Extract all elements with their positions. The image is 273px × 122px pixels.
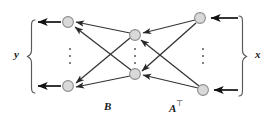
brace-label-x: x [255, 49, 261, 60]
edges-b [75, 22, 131, 87]
brace-label-y: y [14, 49, 19, 60]
edges-a-transpose [141, 20, 199, 88]
right-brace [239, 16, 247, 96]
matrix-label-a-transpose: A⊤ [169, 101, 183, 114]
transpose-symbol: ⊤ [176, 99, 183, 108]
nodes-group [63, 13, 209, 96]
ellipsis-output-column [69, 48, 71, 64]
left-brace [28, 20, 36, 93]
output-arrows-group [38, 22, 61, 86]
node-h1[interactable] [130, 30, 141, 41]
edge-xn-hn [143, 75, 198, 88]
network-diagram-figure: y x B A⊤ [0, 0, 273, 122]
node-hn[interactable] [130, 69, 141, 80]
diagram-canvas [0, 0, 273, 122]
node-xn[interactable] [198, 85, 209, 96]
edge-h1-y1 [76, 22, 130, 33]
matrix-label-b: B [104, 101, 111, 112]
edge-h1-yn [76, 38, 130, 83]
edge-hn-y1 [75, 27, 131, 70]
node-y1[interactable] [63, 17, 74, 28]
ellipsis-hidden-column [134, 48, 136, 64]
node-yn[interactable] [63, 81, 74, 92]
ellipsis-group [69, 48, 204, 64]
ellipsis-input-column [202, 48, 204, 64]
node-x1[interactable] [195, 13, 206, 24]
input-arrows-group [211, 18, 238, 90]
edge-hn-yn [76, 76, 130, 87]
braces-group [28, 16, 247, 96]
